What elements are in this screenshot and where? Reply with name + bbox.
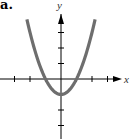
y-axis-arrow-icon	[58, 14, 64, 24]
x-axis-label: x	[123, 73, 129, 85]
axes	[0, 14, 122, 139]
parabola-graph: x y	[0, 0, 131, 139]
y-axis-label: y	[56, 0, 62, 11]
x-axis-arrow-icon	[113, 76, 122, 82]
